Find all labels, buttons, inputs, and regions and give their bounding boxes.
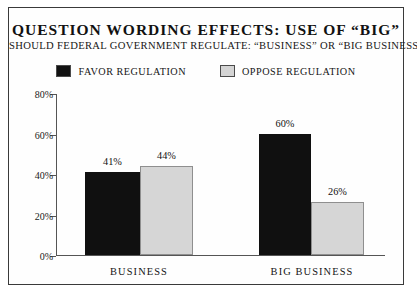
x-category-label-business: BUSINESS xyxy=(110,266,168,277)
y-tick-label-2: 40% xyxy=(35,170,53,181)
legend-swatch-oppose-icon xyxy=(220,65,235,77)
legend-item-oppose: OPPOSE REGULATION xyxy=(220,65,356,77)
bar-label-big-business-favor: 60% xyxy=(276,118,295,129)
legend-item-favor: FAVOR REGULATION xyxy=(56,65,186,77)
bar-label-business-favor: 41% xyxy=(103,156,122,167)
y-tick-label-3: 60% xyxy=(35,129,53,140)
bar-label-business-oppose: 44% xyxy=(157,150,176,161)
bar-big-business-oppose[interactable] xyxy=(311,202,364,255)
y-tick-label-1: 20% xyxy=(35,210,53,221)
y-tick-label-0: 0% xyxy=(40,251,53,262)
legend-swatch-favor-icon xyxy=(56,65,71,77)
legend-label-oppose: OPPOSE REGULATION xyxy=(242,66,356,77)
x-axis-line xyxy=(56,255,385,256)
chart-frame: QUESTION WORDING EFFECTS: USE OF “BIG” S… xyxy=(8,7,404,285)
y-tick-label-4: 80% xyxy=(35,89,53,100)
chart-subtitle: SHOULD FEDERAL GOVERNMENT REGULATE: “BUS… xyxy=(9,40,403,51)
x-category-label-big-business: BIG BUSINESS xyxy=(271,266,354,277)
y-axis-line xyxy=(56,94,57,256)
bar-business-oppose[interactable] xyxy=(140,166,193,255)
bar-business-favor[interactable] xyxy=(85,172,140,255)
plot-area: 0% 20% 40% 60% 80% 41% 44% 60% 26% BUSIN… xyxy=(56,94,385,256)
bar-label-big-business-oppose: 26% xyxy=(328,186,347,197)
legend-label-favor: FAVOR REGULATION xyxy=(78,66,186,77)
bar-big-business-favor[interactable] xyxy=(259,134,311,255)
chart-legend: FAVOR REGULATION OPPOSE REGULATION xyxy=(9,65,403,77)
chart-title: QUESTION WORDING EFFECTS: USE OF “BIG” xyxy=(9,21,403,39)
